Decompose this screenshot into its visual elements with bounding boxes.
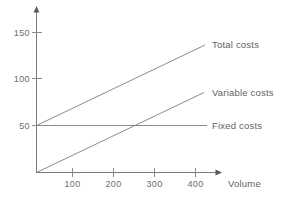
axes-group — [34, 6, 222, 175]
x-axis-title: Volume — [228, 178, 261, 189]
x-tick-label-300: 300 — [146, 179, 162, 189]
y-tick-label-100: 100 — [14, 74, 30, 84]
x-tick-label-400: 400 — [187, 179, 203, 189]
chart-canvas: 150 100 50 100 200 300 400 Total costs V… — [0, 0, 287, 199]
series-line-total-costs — [37, 45, 206, 126]
y-tick-label-50: 50 — [19, 121, 30, 131]
y-axis-arrow-icon — [34, 6, 40, 13]
x-axis-arrow-icon — [216, 170, 223, 176]
y-tick-labels: 150 100 50 — [14, 28, 30, 131]
series-labels: Total costs Variable costs Fixed costs — [212, 39, 274, 131]
series-label-fixed-costs: Fixed costs — [212, 120, 262, 131]
x-tick-label-200: 200 — [105, 179, 121, 189]
cost-volume-chart: 150 100 50 100 200 300 400 Total costs V… — [0, 0, 287, 199]
x-tick-labels: 100 200 300 400 — [64, 179, 203, 189]
x-tick-label-100: 100 — [64, 179, 80, 189]
series-lines — [37, 45, 208, 173]
series-label-total-costs: Total costs — [212, 39, 259, 50]
series-label-variable-costs: Variable costs — [212, 87, 274, 98]
y-tick-label-150: 150 — [14, 28, 30, 38]
series-line-variable-costs — [37, 93, 205, 173]
